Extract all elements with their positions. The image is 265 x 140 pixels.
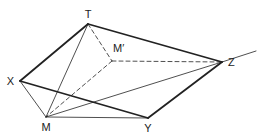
segment-m-y: [46, 117, 148, 118]
point-label-t: T: [85, 8, 92, 20]
geometric-diagram: TM′XZMY: [0, 0, 265, 140]
segment-x-y: [20, 81, 148, 118]
segment-t-z: [88, 24, 222, 62]
segment-m-x: [20, 81, 46, 117]
point-label-m: M: [41, 121, 50, 133]
segment-y-z: [148, 62, 222, 118]
segment-mprime-z: [112, 61, 222, 62]
point-label-z: Z: [228, 56, 235, 68]
segment-mprime-m: [46, 61, 112, 117]
segment-t-m: [46, 24, 88, 117]
segment-t-x: [20, 24, 88, 81]
point-label-mprime: M′: [113, 42, 124, 54]
point-label-y: Y: [144, 122, 152, 134]
point-label-x: X: [7, 75, 15, 87]
segment-m-z: [46, 62, 222, 117]
